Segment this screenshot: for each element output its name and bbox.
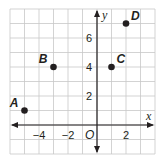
coordinate-plane: x y O −4−22246 ABCD bbox=[0, 0, 162, 160]
x-tick-label: −4 bbox=[33, 129, 46, 141]
x-axis-label: x bbox=[145, 109, 152, 123]
point-b: B bbox=[39, 52, 57, 70]
y-tick-label: 2 bbox=[86, 90, 92, 102]
x-axis-arrow-left-icon bbox=[11, 122, 18, 128]
point-label: A bbox=[9, 96, 19, 110]
point-c: C bbox=[108, 52, 125, 70]
y-axis-arrow-up-icon bbox=[94, 10, 100, 17]
point-a: A bbox=[9, 96, 28, 114]
point-d: D bbox=[123, 9, 140, 27]
y-axis-arrow-down-icon bbox=[94, 146, 100, 153]
origin-label: O bbox=[85, 128, 94, 142]
point-marker bbox=[108, 64, 115, 71]
x-tick-label: 2 bbox=[123, 129, 129, 141]
x-tick-label: −2 bbox=[62, 129, 75, 141]
point-label: D bbox=[131, 9, 140, 23]
y-tick-label: 6 bbox=[86, 32, 92, 44]
point-label: B bbox=[39, 52, 48, 66]
y-axis-label: y bbox=[101, 8, 108, 22]
point-label: C bbox=[117, 52, 126, 66]
point-marker bbox=[123, 20, 130, 27]
point-marker bbox=[50, 64, 57, 71]
y-tick-label: 4 bbox=[86, 61, 92, 73]
data-points: ABCD bbox=[9, 9, 140, 114]
point-marker bbox=[21, 107, 28, 114]
